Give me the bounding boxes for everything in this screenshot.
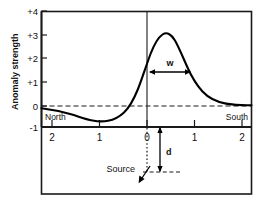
y-tick-label-zero: 0 bbox=[33, 101, 38, 112]
y-axis-title: Anomaly strength bbox=[10, 33, 20, 110]
source-annotation-label: Source bbox=[106, 164, 135, 174]
x-tick-label-north-1: 1 bbox=[97, 132, 103, 143]
depth-annotation-label: d bbox=[166, 147, 172, 157]
y-tick-label-minus1: -1 bbox=[30, 122, 38, 133]
x-tick-label-south-2: 2 bbox=[239, 132, 245, 143]
y-tick-label-plus1: +1 bbox=[27, 77, 38, 88]
width-annotation-label: w bbox=[165, 58, 174, 68]
y-tick-label-plus4: +4 bbox=[27, 6, 38, 17]
y-tick-label-plus3: +3 bbox=[27, 30, 38, 41]
x-tick-label-zero: 0 bbox=[144, 132, 150, 143]
direction-label-north: North bbox=[45, 112, 66, 122]
anomaly-strength-figure: +4 +3 +2 +1 0 -1 Anomaly strength 2 1 0 … bbox=[0, 0, 264, 208]
x-tick-label-south-1: 1 bbox=[192, 132, 198, 143]
direction-label-south: South bbox=[226, 112, 248, 122]
y-tick-label-plus2: +2 bbox=[27, 53, 38, 64]
x-tick-label-north-2: 2 bbox=[49, 132, 55, 143]
